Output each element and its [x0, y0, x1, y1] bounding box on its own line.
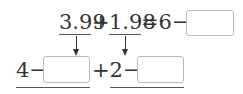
arrow-down-icon	[122, 49, 128, 56]
plus-sign: +	[92, 10, 110, 34]
underline-part2	[110, 87, 184, 88]
underline-term1	[59, 34, 91, 35]
answer-box-1[interactable]	[43, 56, 90, 83]
underline-term2	[109, 34, 141, 35]
arrow-line-1	[76, 36, 77, 50]
answer-box-2[interactable]	[137, 56, 184, 83]
plus-two-minus: +2−	[92, 58, 141, 82]
arrow-line-2	[125, 36, 126, 50]
equals-six-minus: =6−	[141, 10, 190, 34]
arrow-down-icon	[73, 49, 79, 56]
underline-part1	[16, 87, 90, 88]
answer-box-top[interactable]	[186, 10, 234, 36]
